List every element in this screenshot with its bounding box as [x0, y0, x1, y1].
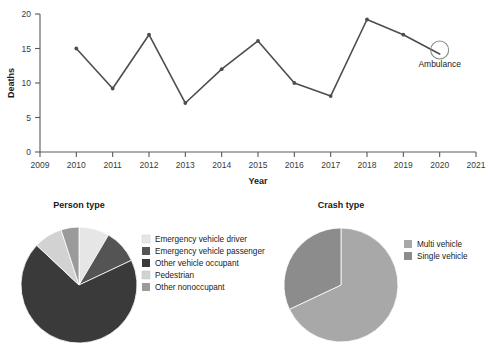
person-pie-legend: Emergency vehicle driver Emergency vehic… [142, 235, 265, 292]
pie-charts-svg: Person type Emergency vehicle driver Eme… [0, 190, 488, 356]
line-chart-svg: 0 5 10 15 20 Deaths [0, 0, 488, 190]
legend-swatch-emergency-vehicle-passenger [142, 247, 150, 255]
x-tick-label-2015: 2015 [249, 160, 268, 170]
figure-root: 0 5 10 15 20 Deaths [0, 0, 488, 356]
x-tick-label-2018: 2018 [358, 160, 377, 170]
y-tick-label-20: 20 [22, 9, 32, 19]
legend-swatch-other-nonoccupant [142, 283, 150, 291]
data-line-ambulance [76, 20, 439, 103]
legend-swatch-single-vehicle [404, 252, 412, 260]
x-tick-label-2011: 2011 [104, 160, 123, 170]
x-tick-label-2012: 2012 [140, 160, 159, 170]
legend-label-emergency-vehicle-driver: Emergency vehicle driver [155, 235, 247, 244]
x-tick-label-2013: 2013 [176, 160, 195, 170]
data-point-marker [220, 67, 224, 71]
y-axis-ticks: 0 5 10 15 20 [22, 9, 40, 157]
legend-swatch-emergency-vehicle-driver [142, 235, 150, 243]
annotation-label-ambulance: Ambulance [418, 59, 461, 69]
legend-swatch-other-vehicle-occupant [142, 259, 150, 267]
legend-label-single-vehicle: Single vehicle [417, 252, 468, 261]
x-tick-label-2010: 2010 [67, 160, 86, 170]
legend-label-other-nonoccupant: Other nonoccupant [155, 283, 225, 292]
data-point-marker [147, 33, 151, 37]
x-tick-label-2016: 2016 [285, 160, 304, 170]
legend-label-other-vehicle-occupant: Other vehicle occupant [155, 259, 239, 268]
legend-label-pedestrian: Pedestrian [155, 271, 195, 280]
x-axis-title: Year [248, 176, 268, 186]
x-axis-ticks: 2009 2010 2011 2012 2013 2014 2015 2016 … [31, 152, 486, 170]
x-tick-label-2020: 2020 [430, 160, 449, 170]
legend-swatch-multi-vehicle [404, 240, 412, 248]
legend-label-emergency-vehicle-passenger: Emergency vehicle passenger [155, 247, 265, 256]
data-point-marker [74, 47, 78, 51]
x-tick-label-2017: 2017 [321, 160, 340, 170]
data-point-marker [256, 39, 260, 43]
crash-pie-slices [284, 228, 398, 342]
x-tick-label-2009: 2009 [31, 160, 50, 170]
y-tick-label-0: 0 [26, 147, 31, 157]
data-point-marker [111, 87, 115, 91]
legend-swatch-pedestrian [142, 271, 150, 279]
data-point-marker [292, 81, 296, 85]
data-point-markers [74, 18, 405, 105]
crash-pie-legend: Multi vehicle Single vehicle [404, 240, 468, 261]
data-point-marker [401, 33, 405, 37]
y-axis-title: Deaths [6, 68, 16, 98]
data-point-marker [329, 94, 333, 98]
legend-label-multi-vehicle: Multi vehicle [417, 240, 462, 249]
y-tick-label-10: 10 [22, 78, 32, 88]
line-chart-panel: 0 5 10 15 20 Deaths [0, 0, 488, 190]
person-pie-title: Person type [53, 200, 105, 210]
data-point-marker [183, 101, 187, 105]
crash-pie-title: Crash type [318, 200, 365, 210]
x-tick-label-2019: 2019 [394, 160, 413, 170]
pie-charts-panel: Person type Emergency vehicle driver Eme… [0, 190, 488, 356]
x-tick-label-2014: 2014 [212, 160, 231, 170]
data-point-marker [365, 18, 369, 22]
x-tick-label-2021: 2021 [467, 160, 486, 170]
person-pie-slices [21, 227, 137, 343]
y-tick-label-15: 15 [22, 44, 32, 54]
y-tick-label-5: 5 [26, 113, 31, 123]
